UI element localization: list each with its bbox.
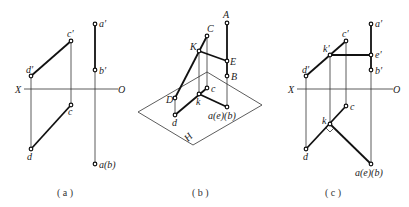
label-c: c bbox=[211, 83, 216, 94]
label-a-prime: a′ bbox=[375, 18, 383, 29]
label-k: k bbox=[196, 96, 201, 107]
panel-c: X O a′ e′ b′ c′ k′ d′ c k d bbox=[287, 18, 400, 199]
point-aeb bbox=[369, 162, 373, 166]
label-aeb: a(e)(b) bbox=[208, 110, 236, 122]
label-k-prime: k′ bbox=[323, 43, 330, 54]
label-A: A bbox=[222, 9, 230, 20]
label-D: D bbox=[165, 94, 174, 105]
label-d: d bbox=[172, 117, 178, 128]
label-d: d bbox=[27, 151, 33, 162]
point-b-prime bbox=[369, 68, 373, 72]
label-B: B bbox=[231, 71, 237, 82]
caption-b: ( b ) bbox=[192, 187, 209, 199]
point-k bbox=[328, 122, 332, 126]
label-c: c bbox=[350, 101, 355, 112]
label-a-prime: a′ bbox=[99, 18, 107, 29]
point-A bbox=[225, 21, 229, 25]
line-k-aeb bbox=[199, 94, 227, 107]
panel-b: H A E B C K D c k d a(e)(b) ( b bbox=[138, 9, 262, 199]
line-KE bbox=[199, 51, 227, 61]
caption-c: ( c ) bbox=[325, 187, 341, 199]
diagram-canvas: X O a′ b′ c′ d′ c d a(b) ( a ) H bbox=[0, 0, 409, 207]
label-C: C bbox=[207, 23, 214, 34]
panel-a: X O a′ b′ c′ d′ c d a(b) ( a ) bbox=[14, 18, 125, 199]
label-aeb: a(e)(b) bbox=[355, 167, 383, 179]
axis-label-o: O bbox=[118, 84, 125, 95]
label-ab: a(b) bbox=[99, 159, 116, 171]
label-c-prime: c′ bbox=[67, 28, 74, 39]
point-a-prime bbox=[93, 22, 97, 26]
label-d: d bbox=[303, 151, 309, 162]
label-e-prime: e′ bbox=[375, 49, 382, 60]
label-K: K bbox=[189, 41, 198, 52]
line-cd bbox=[31, 105, 71, 149]
point-b-prime bbox=[93, 68, 97, 72]
point-c-prime bbox=[69, 39, 73, 43]
h-plane bbox=[138, 72, 262, 145]
point-K bbox=[197, 49, 201, 53]
label-k: k bbox=[322, 115, 327, 126]
right-angle-marker bbox=[326, 128, 334, 132]
point-a-prime bbox=[369, 22, 373, 26]
label-d-prime: d′ bbox=[26, 64, 34, 75]
caption-a: ( a ) bbox=[57, 187, 73, 199]
line-c-prime-d-prime bbox=[31, 41, 71, 76]
point-aeb bbox=[225, 105, 229, 109]
axis-label-x: X bbox=[14, 84, 22, 95]
label-b-prime: b′ bbox=[99, 65, 107, 76]
point-C bbox=[205, 34, 209, 38]
label-d-prime: d′ bbox=[302, 64, 310, 75]
line-cd bbox=[175, 88, 207, 115]
point-c bbox=[344, 104, 348, 108]
line-k-aeb bbox=[330, 124, 371, 164]
axis-label-o: O bbox=[393, 84, 400, 95]
line-cd bbox=[306, 106, 346, 149]
label-b-prime: b′ bbox=[375, 65, 383, 76]
point-E bbox=[225, 59, 229, 63]
label-E: E bbox=[229, 56, 236, 67]
label-c-prime: c′ bbox=[342, 28, 349, 39]
point-c bbox=[205, 86, 209, 90]
label-c: c bbox=[68, 106, 73, 117]
point-ab bbox=[93, 162, 97, 166]
label-h-plane: H bbox=[181, 130, 195, 144]
point-e-prime bbox=[369, 53, 373, 57]
axis-label-x: X bbox=[287, 84, 295, 95]
point-B bbox=[225, 74, 229, 78]
point-D bbox=[173, 96, 177, 100]
point-c-prime bbox=[344, 39, 348, 43]
